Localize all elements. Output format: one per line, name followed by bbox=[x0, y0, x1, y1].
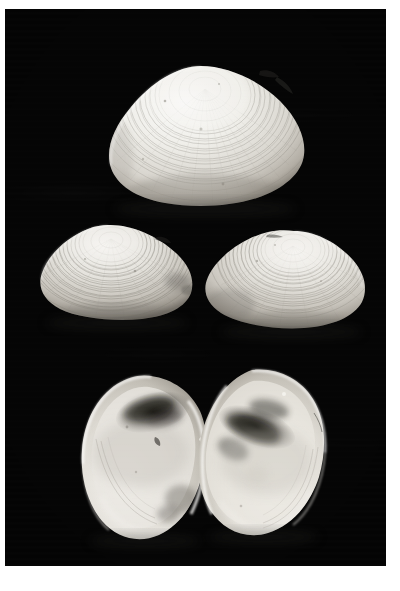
specimen-bottom-left bbox=[82, 375, 210, 539]
shell-plate-figure: Bivalve shell specimen plate top valve e… bbox=[0, 0, 400, 591]
photograph-black-field bbox=[5, 9, 386, 566]
specimen-bottom-right bbox=[198, 370, 325, 536]
specimen-top bbox=[89, 17, 321, 254]
shell-chip-notch bbox=[259, 70, 279, 77]
specimen-layer bbox=[5, 9, 386, 566]
